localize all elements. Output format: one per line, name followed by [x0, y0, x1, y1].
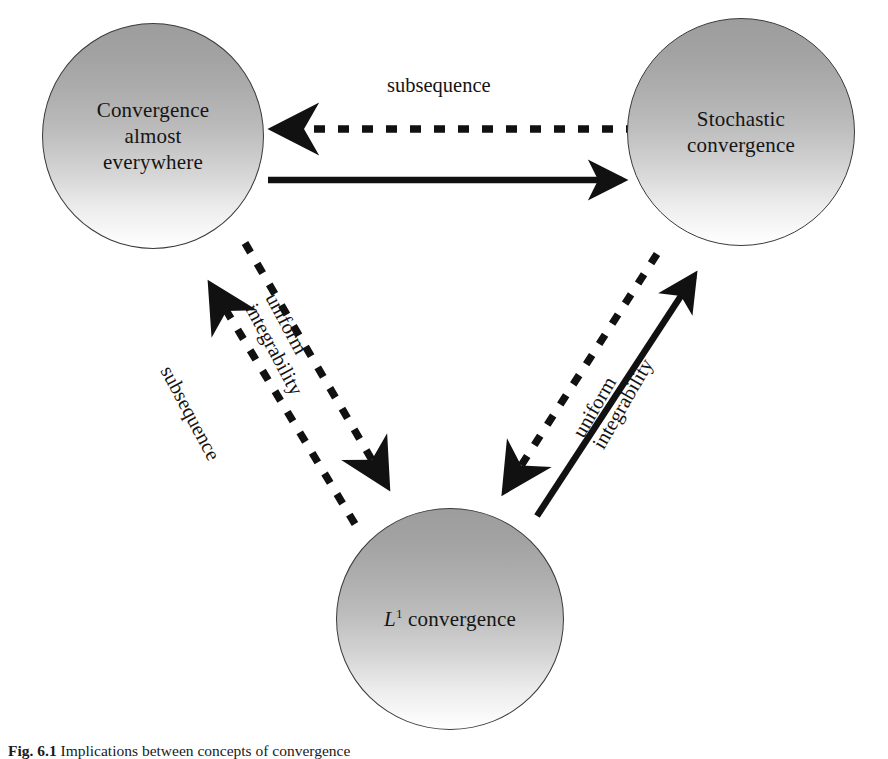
node-l1-convergence[interactable]: L1 convergence — [336, 508, 564, 730]
figure-caption: Fig. 6.1 Implications between concepts o… — [8, 741, 880, 759]
node-line-2: almost — [124, 124, 181, 148]
node-label-l1-convergence: L1 convergence — [374, 606, 526, 632]
figure-caption-label: Fig. 6.1 — [8, 742, 57, 759]
node-label-convergence-almost-everywhere: Convergence almost everywhere — [87, 97, 220, 175]
edge-label-top-subsequence: subsequence — [387, 74, 491, 97]
l1-symbol: L — [384, 607, 396, 631]
node-stochastic-convergence[interactable]: Stochastic convergence — [627, 18, 855, 246]
figure-root: Convergence almost everywhere Stochastic… — [0, 0, 888, 759]
node-line-3: everywhere — [103, 150, 203, 174]
figure-caption-text: Implications between concepts of converg… — [61, 742, 351, 759]
node-label-stochastic-convergence: Stochastic convergence — [677, 106, 805, 158]
l1-exponent: 1 — [396, 606, 403, 621]
node-convergence-almost-everywhere[interactable]: Convergence almost everywhere — [42, 23, 264, 249]
node-line-1: Stochastic — [697, 107, 785, 131]
node-line-1: Convergence — [97, 98, 210, 122]
node-line-2: convergence — [687, 133, 795, 157]
l1-suffix: convergence — [403, 607, 516, 631]
